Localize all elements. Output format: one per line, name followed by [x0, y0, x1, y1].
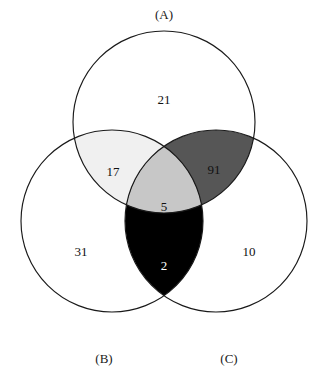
venn-diagram-canvas: (A) (B) (C) 21 31 10 17 91 2 5 — [0, 0, 328, 373]
region-count-abc: 5 — [161, 199, 168, 214]
venn-diagram-figure: (A) (B) (C) 21 31 10 17 91 2 5 — [0, 0, 328, 373]
region-count-ac: 91 — [208, 162, 221, 177]
region-count-bc: 2 — [161, 258, 168, 273]
region-count-c-only: 10 — [243, 244, 256, 259]
set-label-b: (B) — [95, 351, 112, 366]
region-count-a-only: 21 — [158, 92, 171, 107]
set-label-a: (A) — [155, 7, 173, 22]
region-count-ab: 17 — [107, 164, 121, 179]
set-label-c: (C) — [220, 351, 237, 366]
region-count-b-only: 31 — [75, 244, 88, 259]
